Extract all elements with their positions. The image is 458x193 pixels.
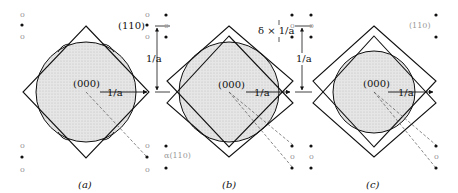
origin-label-a: (000) xyxy=(73,78,100,89)
extra-label-b: α(110) xyxy=(164,151,191,160)
svg-text:o: o xyxy=(20,141,25,150)
caption-a: (a) xyxy=(78,179,92,190)
spacing-label-a: 1/a xyxy=(146,53,162,64)
svg-text:o: o xyxy=(20,32,25,41)
origin-label-c: (000) xyxy=(363,78,390,89)
radius-label-a: 1/a xyxy=(107,87,123,98)
svg-text:o: o xyxy=(309,21,314,30)
shift-label-b: δ × 1/a xyxy=(258,25,294,36)
svg-text:o: o xyxy=(145,141,150,150)
radius-label-b: 1/a xyxy=(254,87,270,98)
caption-c: (c) xyxy=(366,179,380,190)
svg-text:o: o xyxy=(20,10,25,19)
point-label-110: (110) xyxy=(118,20,145,31)
svg-text:o: o xyxy=(145,32,150,41)
svg-text:o: o xyxy=(145,10,150,19)
spacing-label-b: 1/a xyxy=(296,53,312,64)
radius-label-c: 1/a xyxy=(398,87,414,98)
svg-text:o: o xyxy=(164,21,169,30)
panel-c: (000) 1/a o o o (110) (c) xyxy=(309,13,439,190)
svg-text:o: o xyxy=(20,165,25,174)
svg-text:o: o xyxy=(290,152,295,161)
svg-text:o: o xyxy=(145,165,150,174)
panel-b: (000) 1/a 1/a δ × 1/a o o o α(110) (b) xyxy=(164,13,312,190)
panel-a: (000) 1/a 1/a (110) o o o o o o o o (a) xyxy=(20,10,170,190)
svg-text:o: o xyxy=(309,152,314,161)
reciprocal-lattice-figure: (000) 1/a 1/a (110) o o o o o o o o (a) xyxy=(0,0,458,193)
svg-text:o: o xyxy=(434,152,439,161)
origin-label-b: (000) xyxy=(218,79,245,90)
svg-text:o: o xyxy=(290,21,295,30)
extra-label-c: (110) xyxy=(409,21,431,30)
caption-b: (b) xyxy=(222,179,236,190)
